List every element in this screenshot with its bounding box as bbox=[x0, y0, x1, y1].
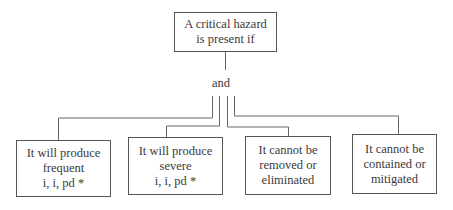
child-4-line-1: It cannot be bbox=[365, 142, 424, 157]
child-node-frequent: It will produce frequent i, i, pd * bbox=[16, 140, 111, 197]
root-node: A critical hazard is present if bbox=[174, 12, 277, 52]
child-node-severe: It will produce severe i, i, pd * bbox=[128, 137, 223, 195]
child-1-line-3: i, i, pd * bbox=[43, 176, 84, 191]
child-2-line-3: i, i, pd * bbox=[155, 174, 196, 189]
child-3-line-1: It cannot be bbox=[258, 143, 317, 158]
root-line-1: A critical hazard bbox=[184, 17, 267, 32]
and-connector-label: and bbox=[212, 76, 230, 91]
child-3-line-3: eliminated bbox=[262, 173, 315, 188]
child-4-line-2: contained or bbox=[363, 157, 425, 172]
child-node-contained: It cannot be contained or mitigated bbox=[352, 134, 437, 194]
child-node-removed: It cannot be removed or eliminated bbox=[245, 136, 331, 195]
child-2-line-2: severe bbox=[160, 159, 192, 174]
root-line-2: is present if bbox=[196, 32, 254, 47]
child-4-line-3: mitigated bbox=[371, 172, 418, 187]
child-3-line-2: removed or bbox=[259, 158, 316, 173]
child-1-line-2: frequent bbox=[43, 161, 85, 176]
child-1-line-1: It will produce bbox=[27, 146, 101, 161]
child-2-line-1: It will produce bbox=[139, 144, 213, 159]
